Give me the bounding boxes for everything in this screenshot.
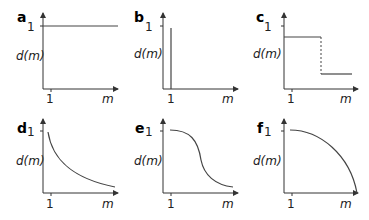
x-axis-label: m <box>102 197 114 211</box>
panel-letter: e <box>135 120 145 136</box>
panel-d: d 1 d(m) 1 m <box>16 119 118 211</box>
sigmoid-decay-curve <box>170 130 233 187</box>
figure-canvas: a 1 d(m) 1 m b 1 d(m) 1 m c 1 d(m) 1 m <box>0 0 369 220</box>
x-axis-label: m <box>102 92 114 106</box>
x-tick-label: 1 <box>46 92 54 106</box>
y-axis-label: d(m) <box>253 47 282 61</box>
y-axis-label: d(m) <box>16 49 45 63</box>
x-axis-label: m <box>340 197 352 211</box>
y-axis-label: d(m) <box>134 47 163 61</box>
x-tick-label: 1 <box>287 197 295 211</box>
x-axis-label: m <box>222 92 234 106</box>
y-tick-label: 1 <box>264 20 272 34</box>
panel-a: a 1 d(m) 1 m <box>16 9 118 106</box>
panel-c: c 1 d(m) 1 m <box>253 9 358 106</box>
panel-letter: a <box>17 9 26 25</box>
y-axis-label: d(m) <box>253 154 282 168</box>
concave-decay-curve <box>290 130 357 193</box>
panel-letter: f <box>257 120 264 136</box>
y-tick-label: 1 <box>145 125 153 139</box>
x-tick-label: 1 <box>167 197 175 211</box>
x-tick-label: 1 <box>167 92 175 106</box>
y-tick-label: 1 <box>264 125 272 139</box>
panel-letter: d <box>17 120 27 136</box>
y-axis-label: d(m) <box>134 154 163 168</box>
panel-letter: b <box>134 9 144 25</box>
y-tick-label: 1 <box>27 20 35 34</box>
x-axis-label: m <box>340 92 352 106</box>
x-tick-label: 1 <box>287 92 295 106</box>
x-tick-label: 1 <box>46 197 54 211</box>
y-tick-label: 1 <box>145 20 153 34</box>
panel-f: f 1 d(m) 1 m <box>253 119 358 211</box>
panel-e: e 1 d(m) 1 m <box>134 119 238 211</box>
y-tick-label: 1 <box>27 125 35 139</box>
x-axis-label: m <box>222 197 234 211</box>
convex-decay-curve <box>48 132 115 187</box>
panel-b: b 1 d(m) 1 m <box>134 9 238 106</box>
y-axis-label: d(m) <box>16 154 45 168</box>
